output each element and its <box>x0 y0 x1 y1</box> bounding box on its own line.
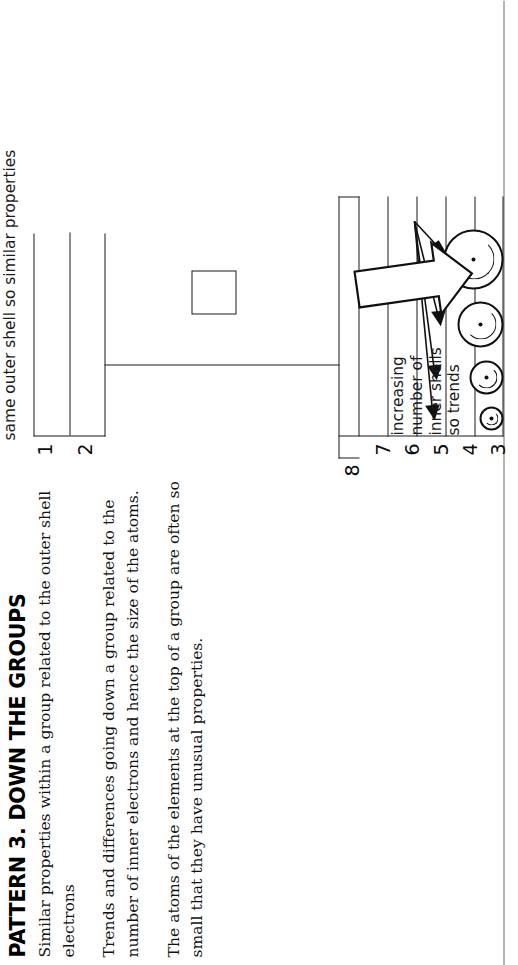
text-column: PATTERN 3. DOWN THE GROUPS Similar prope… <box>6 441 209 957</box>
atom-circle-medium <box>457 301 503 347</box>
atom-circle-small <box>469 360 503 394</box>
caption-line-2: number of <box>407 285 426 435</box>
row-label-6: 6 <box>400 438 422 460</box>
nucleus-dot <box>484 375 488 379</box>
row-label-5: 5 <box>429 438 451 460</box>
page-title: PATTERN 3. DOWN THE GROUPS <box>6 441 29 957</box>
paragraph-outer-shell-electrons: Similar properties within a group relate… <box>33 452 80 957</box>
caption-line-4: so trends <box>444 285 463 435</box>
row-label-1: 1 <box>33 438 55 460</box>
atom-circle-largest <box>443 229 503 289</box>
paragraph-trends-down-group: Trends and differences going down a grou… <box>97 452 144 957</box>
periodic-row-8-block <box>338 196 359 458</box>
caption-same-outer-shell: same outer shell so similar properties <box>0 0 19 440</box>
row-label-7: 7 <box>371 438 393 460</box>
caption-line-3: inner shells <box>426 285 445 435</box>
block-connector-line <box>104 364 339 365</box>
nucleus-dot <box>478 322 482 326</box>
caption-line-1: increasing <box>388 285 407 435</box>
group-trend-diagram: same outer shell so similar properties 1… <box>0 0 518 445</box>
row-label-8: 8 <box>340 459 362 481</box>
atom-circle-smallest <box>479 406 503 430</box>
textbook-page: PATTERN 3. DOWN THE GROUPS Similar prope… <box>0 0 518 965</box>
nucleus-dot <box>471 257 475 261</box>
row-label-2: 2 <box>73 438 95 460</box>
row-label-3: 3 <box>486 438 508 460</box>
paragraph-top-of-group-unusual: The atoms of the elements at the top of … <box>162 452 209 957</box>
periodic-rows-1-2-block <box>33 233 105 436</box>
standalone-element-box <box>191 270 236 314</box>
row-label-4: 4 <box>458 438 480 460</box>
rotated-page-frame: PATTERN 3. DOWN THE GROUPS Similar prope… <box>0 0 518 965</box>
row-divider-1-2 <box>69 232 70 435</box>
nucleus-dot <box>489 416 493 420</box>
caption-increasing-inner-shells: increasing number of inner shells so tre… <box>388 285 463 435</box>
